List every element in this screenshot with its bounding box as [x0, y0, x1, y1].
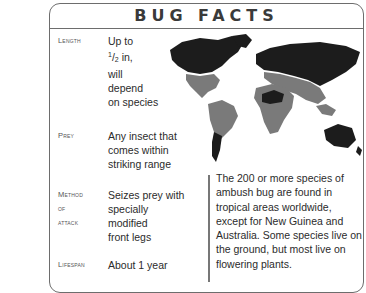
fraction-line: 1/2 in,	[108, 48, 158, 67]
value-line: specially	[108, 202, 184, 216]
map-new-zealand	[356, 146, 362, 156]
map-australia	[324, 124, 356, 148]
value-line: on species	[108, 95, 158, 109]
label-line: of attack	[58, 202, 83, 230]
value-line: modified	[108, 216, 184, 230]
map-central-america-range	[186, 74, 220, 98]
fact-value-method: Seizes prey with specially modified fron…	[108, 188, 184, 244]
fact-value-length: Up to 1/2 in, will depend on species	[108, 34, 158, 109]
map-se-asia-range	[316, 104, 336, 116]
value-line: front legs	[108, 230, 184, 244]
world-distribution-map	[160, 32, 364, 172]
description-paragraph: The 200 or more species of ambush bug ar…	[216, 171, 364, 271]
value-line: Any insect that	[108, 129, 177, 143]
card-title: BUG FACTS	[134, 6, 279, 25]
fraction-numerator: 1	[108, 51, 112, 58]
fact-label-prey: Prey	[58, 129, 74, 143]
card-header: BUG FACTS	[49, 3, 364, 29]
map-south-america-range	[208, 100, 238, 142]
value-line: Seizes prey with	[108, 188, 184, 202]
value-line: About 1 year	[108, 258, 168, 272]
label-line: Method	[58, 188, 83, 202]
fraction-suffix: in,	[119, 51, 133, 63]
value-line: comes within	[108, 143, 177, 157]
fact-label-lifespan: Lifespan	[58, 258, 85, 272]
fact-value-prey: Any insect that comes within striking ra…	[108, 129, 177, 171]
value-line: will	[108, 67, 158, 81]
fact-value-lifespan: About 1 year	[108, 258, 168, 272]
value-line: striking range	[108, 157, 177, 171]
map-south-america-south	[212, 132, 222, 162]
fact-label-method: Method of attack	[58, 188, 83, 230]
value-line: Up to	[108, 34, 158, 48]
column-divider	[208, 175, 210, 282]
value-line: depend	[108, 81, 158, 95]
map-north-america	[170, 36, 244, 74]
fact-label-length: Length	[58, 34, 81, 48]
